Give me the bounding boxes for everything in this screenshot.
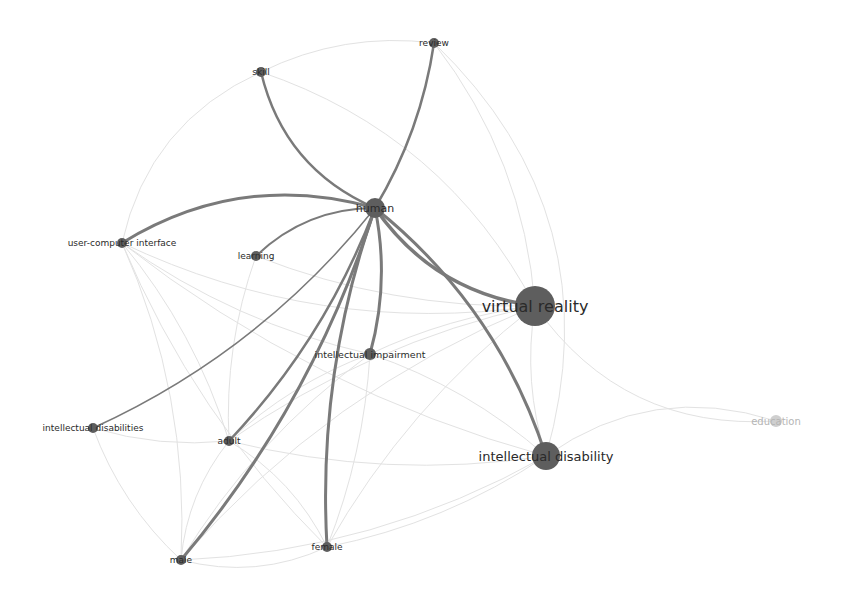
edge-learning-adult: [228, 256, 256, 441]
edge-virtual_reality-female: [327, 306, 535, 547]
faint-edges: [93, 40, 776, 567]
label-male[interactable]: male: [170, 555, 193, 565]
edge-intellectual_disability-female: [327, 456, 546, 547]
edge-skill-review: [261, 40, 434, 72]
edge-male-user_computer_interface: [122, 243, 182, 560]
labels: humanvirtual realityintellectual disabil…: [43, 38, 801, 565]
edge-human-intellectual_disability: [375, 208, 546, 456]
edge-virtual_reality-skill: [261, 72, 535, 306]
label-female[interactable]: female: [311, 542, 342, 552]
edge-human-adult: [229, 208, 375, 441]
label-adult[interactable]: adult: [218, 436, 241, 446]
edge-virtual_reality-review: [434, 43, 535, 306]
label-intellectual-disabilities[interactable]: intellectual disabilities: [43, 423, 144, 433]
edge-virtual_reality-user_computer_interface: [122, 243, 535, 313]
edge-human-female: [326, 208, 375, 547]
label-education[interactable]: education: [751, 416, 801, 427]
edge-intellectual_impairment-adult: [229, 354, 370, 441]
edge-virtual_reality-education: [535, 306, 776, 422]
edge-human-virtual_reality: [375, 208, 535, 306]
edge-intellectual_disability-intellectual_impairment: [370, 354, 546, 456]
edge-human-review: [375, 43, 434, 208]
strong-edges: [93, 43, 546, 560]
edge-intellectual_disabilities-male: [93, 428, 181, 560]
edge-intellectual_disability-male: [181, 456, 546, 560]
label-intellectual-disability[interactable]: intellectual disability: [479, 449, 614, 464]
label-user-computer-interface[interactable]: user-computer interface: [68, 238, 177, 248]
keyword-network: humanvirtual realityintellectual disabil…: [0, 0, 842, 594]
label-intellectual-impairment[interactable]: intellectual impairment: [315, 349, 426, 360]
label-human[interactable]: human: [356, 202, 394, 215]
edge-review-intellectual_disability: [434, 43, 565, 456]
label-virtual-reality[interactable]: virtual reality: [482, 297, 589, 316]
edge-human-user_computer_interface: [122, 195, 375, 243]
label-skill[interactable]: skill: [252, 67, 269, 77]
edge-human-skill: [261, 72, 375, 208]
label-review[interactable]: review: [419, 38, 449, 48]
edge-male-female: [181, 547, 327, 567]
label-learning[interactable]: learning: [238, 251, 275, 261]
edge-skill-user_computer_interface: [122, 72, 261, 243]
edge-human-intellectual_impairment: [370, 208, 381, 354]
